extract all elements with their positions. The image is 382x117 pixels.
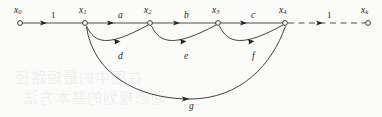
node-label-x4-sub: 4 bbox=[283, 8, 286, 15]
node-label-xk: xk bbox=[361, 6, 368, 16]
node-label-xk-sub: k bbox=[365, 8, 368, 15]
arc-edge-f bbox=[220, 25, 284, 41]
edge-label-x0-x1: 1 bbox=[51, 11, 56, 20]
edge-label-c: c bbox=[251, 11, 255, 21]
node-xk[interactable] bbox=[366, 21, 371, 26]
arc-edge-g bbox=[87, 26, 286, 99]
node-label-x1: x1 bbox=[79, 6, 86, 16]
arc-label-g: g bbox=[189, 102, 194, 112]
node-label-x2: x2 bbox=[144, 6, 151, 16]
arc-label-e: e bbox=[184, 52, 188, 62]
graph-canvas bbox=[0, 0, 382, 117]
arc-edge-e bbox=[152, 25, 217, 41]
node-label-x3: x3 bbox=[212, 6, 219, 16]
edge-label-x4-xk: 1 bbox=[327, 11, 332, 20]
node-x1[interactable] bbox=[83, 21, 88, 26]
node-x3[interactable] bbox=[216, 21, 221, 26]
node-label-x3-sub: 3 bbox=[216, 8, 219, 15]
edge-label-a: a bbox=[118, 11, 123, 21]
node-label-x0: x0 bbox=[14, 6, 21, 16]
arc-label-f: f bbox=[252, 52, 255, 62]
node-label-x1-sub: 1 bbox=[83, 8, 86, 15]
node-x4[interactable] bbox=[283, 21, 288, 26]
node-x0[interactable] bbox=[18, 21, 23, 26]
node-x2[interactable] bbox=[148, 21, 153, 26]
node-label-x2-sub: 2 bbox=[148, 8, 151, 15]
edge-label-b: b bbox=[184, 11, 189, 21]
arc-label-d: d bbox=[118, 52, 123, 62]
arc-arrowheads bbox=[113, 39, 255, 102]
node-label-x4: x4 bbox=[279, 6, 286, 16]
graph-figure: 在图中的最短路径 动态规划的基本方法 bbox=[0, 0, 382, 117]
arc-edge-d bbox=[87, 25, 149, 41]
node-label-x0-sub: 0 bbox=[18, 8, 21, 15]
